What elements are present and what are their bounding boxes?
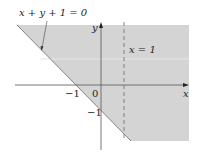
inequality-region-diagram: x + y + 1 = 0 x = 1 x y −1 0 −1: [0, 0, 200, 153]
boundary-equation-label: x + y + 1 = 0: [19, 7, 88, 18]
y-tick-neg1-label: −1: [87, 107, 102, 118]
dashed-equation-label: x = 1: [129, 44, 156, 55]
origin-label: 0: [92, 88, 98, 99]
x-axis-label: x: [183, 88, 189, 99]
x-tick-neg1-label: −1: [65, 88, 80, 99]
y-axis-label: y: [91, 22, 98, 33]
